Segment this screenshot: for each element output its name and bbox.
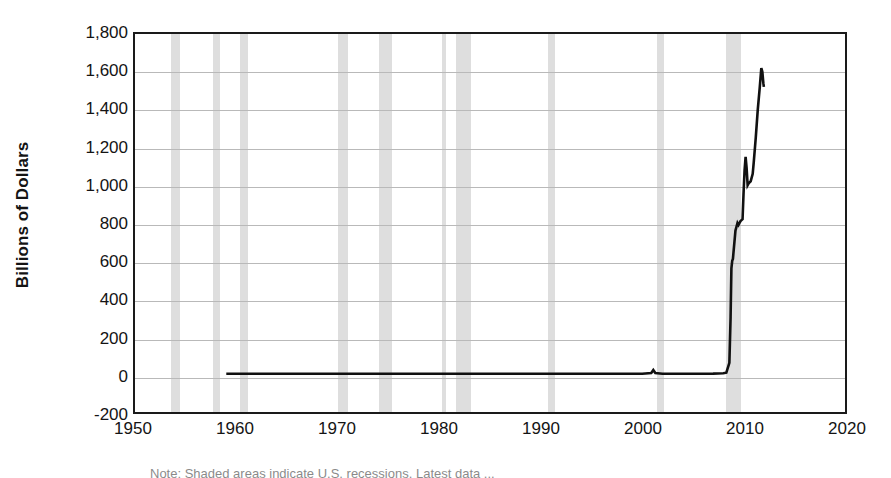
x-tick-label: 2020	[807, 420, 887, 437]
x-tick-label: 2010	[705, 420, 785, 437]
y-tick-label: 1,400	[42, 100, 128, 117]
x-tick-label: 2000	[603, 420, 683, 437]
plot-area	[133, 32, 847, 414]
y-axis-title: Billions of Dollars	[6, 0, 40, 430]
x-tick-label: 1990	[501, 420, 581, 437]
x-tick-label: 1970	[297, 420, 377, 437]
y-tick-label: 200	[42, 329, 128, 346]
plot-inner	[135, 34, 845, 412]
x-axis-tick-labels: 19501960197019801990200020102020	[0, 420, 891, 450]
y-tick-label: 1,600	[42, 62, 128, 79]
series-path	[226, 68, 764, 374]
x-tick-label: 1960	[195, 420, 275, 437]
series-line	[135, 34, 845, 412]
y-axis-tick-labels: -20002004006008001,0001,2001,4001,6001,8…	[40, 0, 128, 478]
y-tick-label: 600	[42, 253, 128, 270]
x-tick-label: 1980	[399, 420, 479, 437]
y-tick-label: 1,800	[42, 24, 128, 41]
x-tick-label: 1950	[93, 420, 173, 437]
y-tick-label: 1,000	[42, 176, 128, 193]
y-axis-title-text: Billions of Dollars	[13, 142, 33, 288]
y-tick-label: 1,200	[42, 138, 128, 155]
y-tick-label: 400	[42, 291, 128, 308]
figure-caption: Note: Shaded areas indicate U.S. recessi…	[150, 466, 750, 478]
y-tick-label: 0	[42, 367, 128, 384]
chart-figure: Billions of Dollars -20002004006008001,0…	[0, 0, 891, 478]
y-tick-label: 800	[42, 215, 128, 232]
